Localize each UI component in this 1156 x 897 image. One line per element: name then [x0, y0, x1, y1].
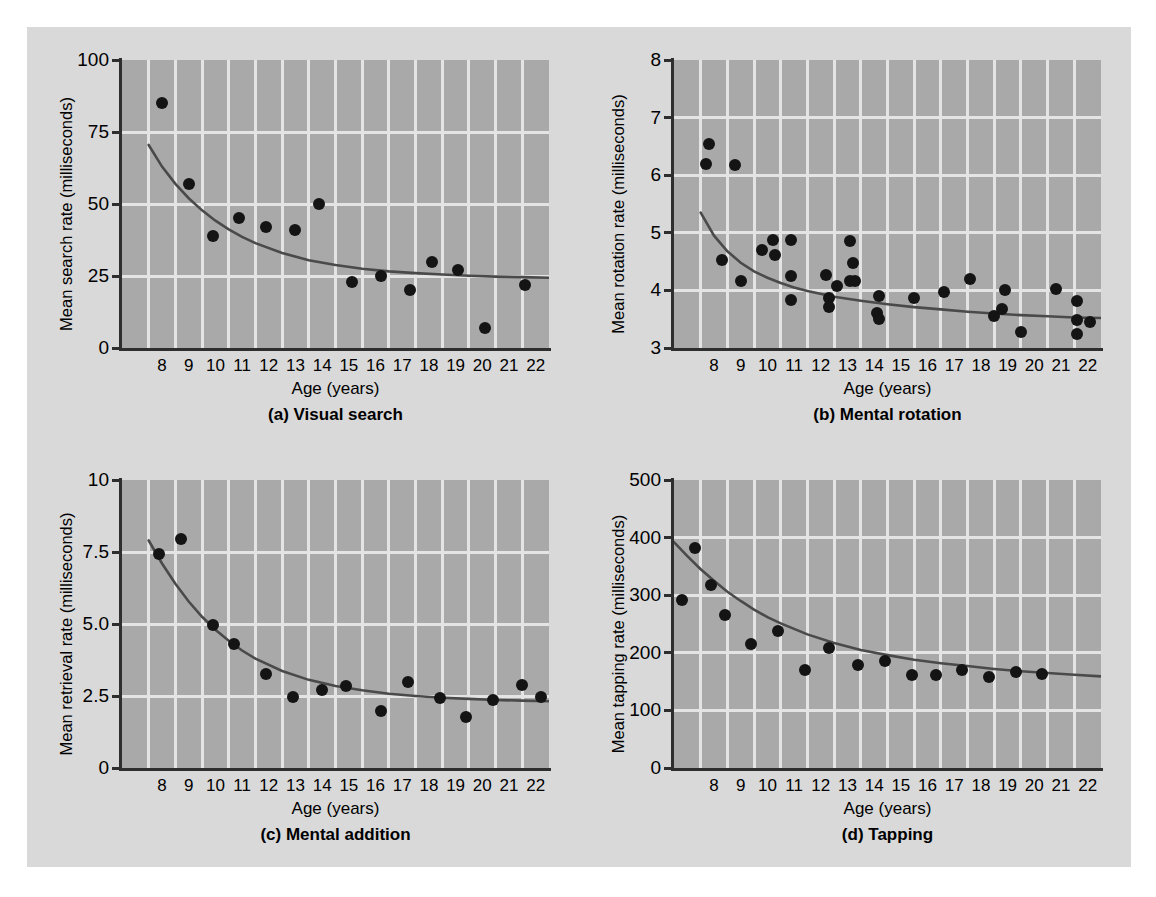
data-point	[930, 669, 942, 681]
data-point	[375, 705, 387, 717]
y-axis-line	[671, 478, 674, 770]
x-axis-line	[119, 348, 551, 351]
data-point	[183, 178, 195, 190]
x-tick-label: 17	[393, 356, 412, 376]
fit-curve-a	[122, 60, 549, 348]
x-axis-line	[671, 768, 1103, 771]
x-tick-label: 14	[313, 356, 332, 376]
x-tick-label: 19	[998, 356, 1017, 376]
x-tick-label: 9	[736, 356, 745, 376]
y-tick-mark	[112, 347, 120, 350]
data-point	[799, 664, 811, 676]
fit-curve-b	[674, 60, 1101, 348]
y-tick-label: 0	[98, 337, 109, 359]
x-tick-label: 16	[366, 776, 385, 796]
x-tick-label: 12	[811, 776, 830, 796]
x-tick-label: 11	[785, 776, 803, 796]
data-point	[938, 286, 950, 298]
data-point	[1050, 283, 1062, 295]
plot-inner-d	[674, 480, 1101, 768]
x-tick-label: 9	[736, 776, 745, 796]
data-point	[207, 230, 219, 242]
data-point	[823, 642, 835, 654]
x-tick-label: 17	[393, 776, 412, 796]
x-tick-label: 22	[526, 356, 545, 376]
data-point	[820, 269, 832, 281]
x-tick-label: 22	[1078, 356, 1097, 376]
y-tick-mark	[664, 347, 672, 350]
y-tick-label: 2.5	[83, 685, 109, 707]
y-tick-mark	[664, 536, 672, 539]
y-tick-label: 8	[650, 49, 661, 71]
x-tick-label: 19	[446, 776, 465, 796]
y-axis-title: Mean search rate (milliseconds)	[53, 49, 79, 379]
x-axis-line	[119, 768, 551, 771]
data-point	[767, 234, 779, 246]
x-tick-label: 12	[259, 776, 278, 796]
x-tick-label: 21	[500, 776, 519, 796]
data-point	[287, 691, 299, 703]
x-tick-label: 12	[259, 356, 278, 376]
data-point	[849, 275, 861, 287]
data-point	[735, 275, 747, 287]
y-tick-mark	[664, 116, 672, 119]
x-tick-label: 10	[758, 776, 777, 796]
data-point	[434, 692, 446, 704]
x-tick-label: 20	[473, 356, 492, 376]
y-tick-mark	[664, 709, 672, 712]
data-point	[700, 158, 712, 170]
x-tick-label: 8	[709, 776, 718, 796]
y-tick-mark	[112, 131, 120, 134]
x-tick-label: 10	[206, 356, 225, 376]
fit-curve-d	[674, 480, 1101, 768]
y-tick-mark	[112, 479, 120, 482]
x-axis-title: Age (years)	[122, 799, 549, 819]
x-tick-label: 13	[838, 356, 857, 376]
panel-visual-search: Mean search rate (milliseconds) 02550751…	[27, 27, 579, 447]
panel-mental-rotation: Mean rotation rate (milliseconds) 345678…	[579, 27, 1131, 447]
y-axis-title: Mean retrieval rate (milliseconds)	[53, 469, 79, 799]
x-tick-label: 21	[500, 356, 519, 376]
y-tick-mark	[112, 59, 120, 62]
y-tick-label: 300	[629, 584, 661, 606]
x-tick-label: 8	[709, 356, 718, 376]
x-tick-label: 20	[1025, 776, 1044, 796]
data-point	[346, 276, 358, 288]
data-point	[340, 680, 352, 692]
x-tick-label: 13	[838, 776, 857, 796]
x-tick-label: 22	[1078, 776, 1097, 796]
y-tick-label: 10	[88, 469, 109, 491]
x-tick-label: 18	[971, 776, 990, 796]
x-tick-label: 18	[419, 356, 438, 376]
data-point	[460, 711, 472, 723]
data-point	[983, 671, 995, 683]
data-point	[207, 619, 219, 631]
data-point	[719, 609, 731, 621]
data-point	[906, 669, 918, 681]
data-point	[745, 638, 757, 650]
y-tick-label: 5	[650, 222, 661, 244]
data-point	[847, 257, 859, 269]
data-point	[402, 676, 414, 688]
x-tick-label: 20	[1025, 356, 1044, 376]
y-tick-label: 6	[650, 164, 661, 186]
x-tick-label: 9	[184, 776, 193, 796]
x-tick-label: 8	[157, 776, 166, 796]
x-axis-title: Age (years)	[674, 799, 1101, 819]
x-tick-label: 16	[918, 776, 937, 796]
plot-inner-c	[122, 480, 549, 768]
x-tick-label: 20	[473, 776, 492, 796]
plot-area-c: 02.55.07.5108910111213141516171819202122	[122, 480, 549, 768]
x-tick-label: 9	[184, 356, 193, 376]
y-tick-mark	[112, 767, 120, 770]
y-tick-label: 7.5	[83, 541, 109, 563]
plot-area-b: 3456788910111213141516171819202122	[674, 60, 1101, 348]
x-tick-label: 21	[1052, 356, 1071, 376]
y-tick-mark	[664, 231, 672, 234]
plot-inner-a	[122, 60, 549, 348]
x-tick-label: 18	[419, 776, 438, 796]
y-tick-mark	[664, 594, 672, 597]
y-tick-mark	[112, 695, 120, 698]
x-tick-label: 22	[526, 776, 545, 796]
x-tick-label: 16	[918, 356, 937, 376]
